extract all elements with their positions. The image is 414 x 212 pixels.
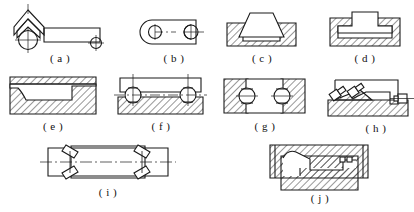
figure-c-trapezoid-fill [239, 13, 284, 37]
caption-g: ( g ) [245, 120, 285, 132]
figure-h-base-hatch [328, 100, 408, 116]
drawing-sheet: ( a ) ( b ) ( c ) ( d ) ( e ) ( f ) ( g … [0, 0, 414, 212]
caption-a: ( a ) [40, 52, 80, 64]
caption-d: ( d ) [345, 52, 385, 64]
technical-drawing-canvas [0, 0, 414, 212]
figure-d [330, 12, 400, 46]
figure-a [14, 4, 104, 53]
figure-f [114, 74, 207, 114]
caption-b: ( b ) [154, 52, 194, 64]
figure-h [328, 80, 414, 116]
figure-i [40, 145, 176, 179]
caption-i: ( i ) [88, 186, 128, 198]
caption-e: ( e ) [33, 120, 73, 132]
caption-h: ( h ) [356, 122, 396, 134]
figure-b [140, 20, 204, 44]
figure-j-detail-2 [347, 157, 352, 162]
figure-b-centre-marks [155, 24, 204, 40]
caption-j: ( j ) [300, 192, 340, 204]
figure-g [224, 79, 305, 113]
figure-j [270, 145, 368, 190]
figure-j-detail-1 [340, 157, 345, 162]
figure-c [227, 13, 296, 46]
caption-c: ( c ) [242, 52, 282, 64]
figure-e [10, 77, 96, 114]
caption-f: ( f ) [141, 120, 181, 132]
